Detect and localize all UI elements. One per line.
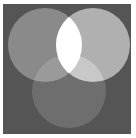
venn-diagram-svg bbox=[0, 0, 136, 138]
venn-diagram bbox=[0, 0, 136, 138]
